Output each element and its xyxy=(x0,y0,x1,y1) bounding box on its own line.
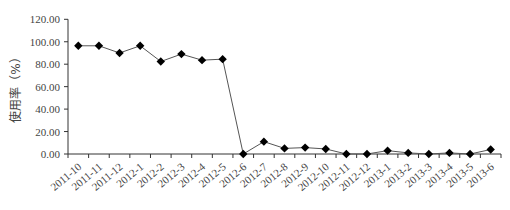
series-line xyxy=(78,46,490,154)
y-tick-label: 60.00 xyxy=(35,81,60,93)
data-series xyxy=(74,42,495,159)
diamond-marker xyxy=(280,144,288,152)
diamond-marker xyxy=(445,149,453,157)
diamond-marker xyxy=(322,145,330,153)
diamond-marker xyxy=(157,57,165,65)
y-tick-label: 100.00 xyxy=(30,36,61,48)
diamond-marker xyxy=(260,137,268,145)
diamond-marker xyxy=(136,42,144,50)
diamond-marker xyxy=(466,150,474,158)
line-chart: 0.0020.0040.0060.0080.00100.00120.00 201… xyxy=(0,0,510,210)
diamond-marker xyxy=(239,150,247,158)
y-tick-label: 20.00 xyxy=(35,126,60,138)
diamond-marker xyxy=(486,145,494,153)
y-tick-label: 80.00 xyxy=(35,58,60,70)
diamond-marker xyxy=(363,150,371,158)
y-axis: 0.0020.0040.0060.0080.00100.00120.00 xyxy=(30,13,68,160)
diamond-marker xyxy=(404,149,412,157)
diamond-marker xyxy=(342,150,350,158)
y-tick-label: 40.00 xyxy=(35,103,60,115)
diamond-marker xyxy=(95,42,103,50)
y-axis-label: 使用率（%） xyxy=(8,51,23,122)
diamond-marker xyxy=(177,50,185,58)
x-axis: 2011-102011-112011-122012-12012-22012-32… xyxy=(48,154,501,193)
diamond-marker xyxy=(74,42,82,50)
diamond-marker xyxy=(198,56,206,64)
diamond-marker xyxy=(218,55,226,63)
y-tick-label: 120.00 xyxy=(30,13,61,25)
diamond-marker xyxy=(115,49,123,57)
diamond-marker xyxy=(301,143,309,151)
diamond-marker xyxy=(425,150,433,158)
y-tick-label: 0.00 xyxy=(41,148,61,160)
